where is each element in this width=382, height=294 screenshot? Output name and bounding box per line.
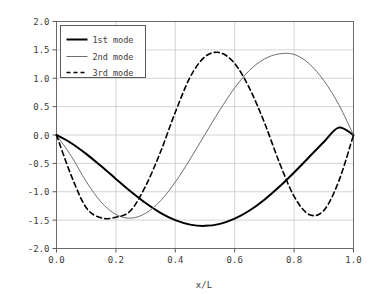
mode-shape-chart: 0.00.20.40.60.81.0 2.01.51.00.50.0-0.5-1… xyxy=(0,0,382,294)
y-tick-label: 0.5 xyxy=(33,102,49,112)
y-tick-label: 0.0 xyxy=(33,131,49,141)
x-tick-label: 0.0 xyxy=(48,255,64,265)
x-axis-title: x/L xyxy=(196,280,212,290)
y-tick-label: 1.5 xyxy=(33,45,49,55)
x-tick-label: 0.6 xyxy=(227,255,243,265)
x-tick-label: 0.2 xyxy=(108,255,124,265)
x-tick-label: 0.8 xyxy=(286,255,302,265)
legend-label-2: 2nd mode xyxy=(93,52,134,62)
legend-label-3: 3rd mode xyxy=(93,68,134,78)
y-tick-label: 1.0 xyxy=(33,74,49,84)
chart-canvas: 0.00.20.40.60.81.0 2.01.51.00.50.0-0.5-1… xyxy=(0,0,382,294)
chart-legend: 1st mode2nd mode3rd mode xyxy=(61,26,146,78)
x-tick-label: 1.0 xyxy=(345,255,361,265)
x-axis-tick-labels: 0.00.20.40.60.81.0 xyxy=(48,255,361,265)
y-tick-label: -0.5 xyxy=(28,159,50,169)
y-tick-label: 2.0 xyxy=(33,17,49,27)
y-tick-label: -2.0 xyxy=(28,244,50,254)
legend-label-1: 1st mode xyxy=(93,35,134,45)
y-tick-label: -1.5 xyxy=(28,216,50,226)
series-line-1 xyxy=(57,127,354,225)
y-axis-tick-labels: 2.01.51.00.50.0-0.5-1.0-1.5-2.0 xyxy=(28,17,50,254)
x-tick-label: 0.4 xyxy=(167,255,183,265)
y-tick-label: -1.0 xyxy=(28,187,50,197)
